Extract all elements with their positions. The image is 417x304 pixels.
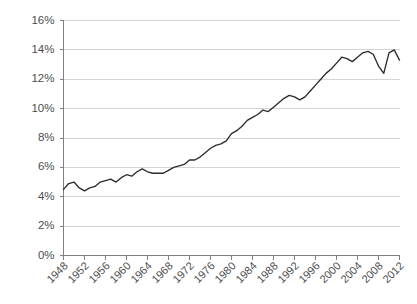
line-chart: 0%2%4%6%8%10%12%14%16% 19481952195619601… [0,0,417,304]
x-axis-label-2012: 2012 [380,259,406,285]
x-axis-label-2008: 2008 [359,259,385,285]
y-axis-label-10: 10% [31,102,54,114]
x-axis-label-2004: 2004 [338,259,364,285]
y-axis-label-4: 4% [38,190,55,202]
x-axis-label-1968: 1968 [149,259,175,285]
y-axis-label-0: 0% [38,249,55,261]
x-axis-label-1972: 1972 [170,259,196,285]
y-axis-label-16: 16% [31,14,54,26]
y-axis-label-12: 12% [31,72,54,84]
y-axis-label-14: 14% [31,43,54,55]
x-axis-label-1952: 1952 [65,259,91,285]
chart-canvas: 0%2%4%6%8%10%12%14%16% 19481952195619601… [0,0,417,304]
y-axis-label-8: 8% [38,131,55,143]
x-axis-labels: 1948195219561960196419681972197619801984… [44,259,406,285]
x-axis-label-1984: 1984 [233,259,259,285]
x-axis-label-1960: 1960 [107,259,133,285]
gridlines-group [64,21,400,227]
y-axis-labels: 0%2%4%6%8%10%12%14%16% [31,14,54,261]
x-axis-label-1988: 1988 [254,259,280,285]
x-axis-label-1992: 1992 [275,259,301,285]
x-axis-label-1996: 1996 [296,259,322,285]
y-axis-label-6: 6% [38,160,55,172]
x-axis-label-1948: 1948 [44,259,70,285]
y-axis-label-2: 2% [38,219,55,231]
x-axis-label-1956: 1956 [86,259,112,285]
x-axis-label-1976: 1976 [191,259,217,285]
x-axis-label-1980: 1980 [212,259,238,285]
data-series-line [64,50,400,191]
x-axis-label-1964: 1964 [128,259,154,285]
x-axis-label-2000: 2000 [317,259,343,285]
